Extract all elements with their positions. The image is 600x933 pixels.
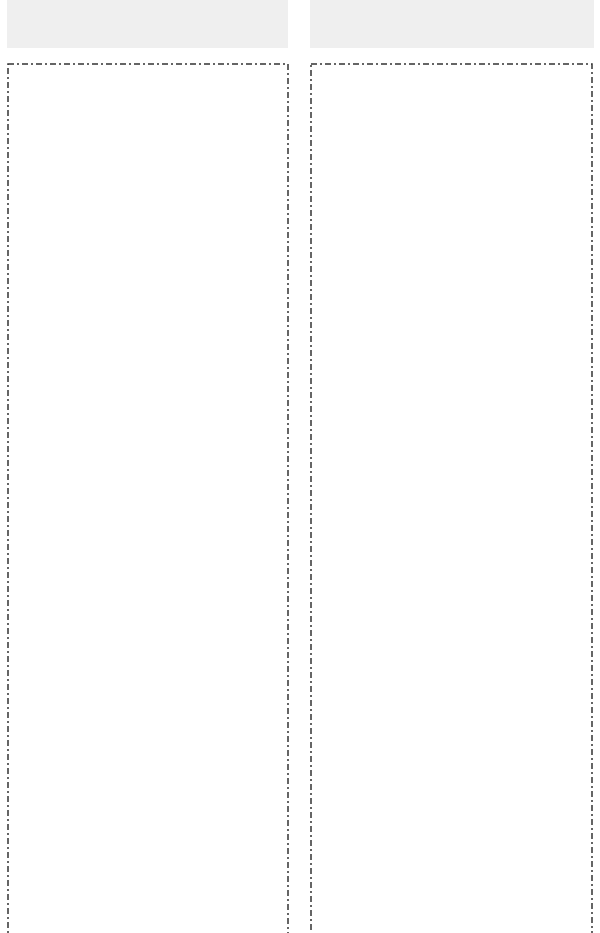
- right-header-bar: [310, 0, 594, 48]
- right-column: [310, 0, 594, 931]
- left-dropzone[interactable]: [7, 63, 288, 933]
- left-header-bar: [7, 0, 288, 48]
- left-column: [7, 0, 288, 931]
- right-dash-border: [310, 63, 594, 933]
- left-dash-border: [7, 63, 290, 933]
- right-dropzone[interactable]: [310, 63, 594, 933]
